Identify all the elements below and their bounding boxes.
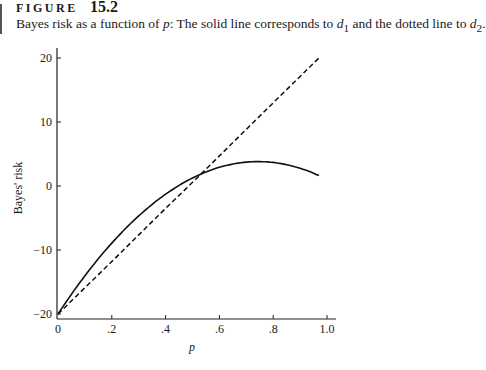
x-tick-label: .2 [107, 322, 116, 336]
y-tick-label: 0 [46, 179, 52, 193]
y-axis-label: Bayes' risk [11, 162, 25, 215]
series [58, 58, 319, 314]
y-tick-label: 20 [40, 51, 52, 65]
caption-text: . [482, 16, 485, 31]
axes [57, 48, 336, 319]
x-tick-label: 0 [55, 322, 61, 336]
y-tick-label: −20 [33, 307, 52, 321]
y-tick-label: 10 [40, 115, 52, 129]
caption-d2: d [470, 16, 477, 31]
series-d1-line [58, 162, 319, 314]
x-axis-label: p [188, 340, 195, 354]
x-tick-label: 1.0 [320, 322, 335, 336]
x-tick-label: .6 [215, 322, 224, 336]
x-tick-label: .4 [161, 322, 170, 336]
y-tick-label: −10 [33, 243, 52, 257]
x-tick-label: .8 [269, 322, 278, 336]
series-d2-line [58, 58, 319, 314]
ticks: 0.2.4.6.81.020100−10−20 [33, 51, 334, 336]
